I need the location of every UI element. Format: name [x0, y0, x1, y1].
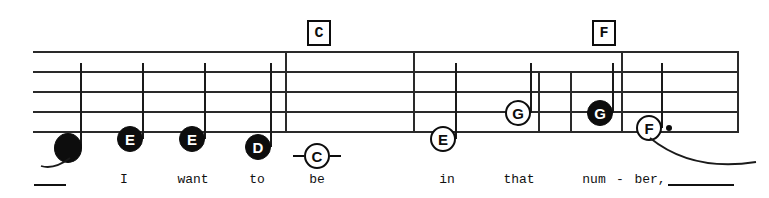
notehead-g: G — [505, 100, 531, 126]
note-stem — [661, 63, 663, 128]
lyric-syllable: I — [120, 172, 128, 187]
notehead-g: G — [587, 100, 613, 126]
notehead-e: E — [430, 126, 456, 152]
slur-opening — [40, 150, 74, 170]
lyric-syllable: - — [616, 172, 624, 187]
barline — [538, 71, 540, 133]
lyric-syllable: ber, — [634, 172, 665, 187]
staff-line — [33, 91, 737, 93]
sheet-music-excerpt: C F EEDCEGGFIwanttobeinthatnum-ber, — [0, 0, 769, 198]
staff-line — [33, 111, 737, 113]
music-staff — [33, 51, 737, 133]
lyric-syllable: that — [503, 172, 534, 187]
chord-symbol-label: F — [599, 26, 608, 41]
note-stem — [455, 63, 457, 139]
note-stem — [270, 63, 272, 147]
note-stem — [612, 63, 614, 113]
barline — [621, 51, 623, 133]
barline — [285, 51, 287, 133]
sustain-stroke — [293, 155, 304, 157]
chord-symbol-f: F — [592, 20, 616, 46]
lyric-syllable: be — [309, 172, 325, 187]
barline — [737, 51, 739, 133]
notehead-e: E — [179, 126, 205, 152]
chord-symbol-label: C — [314, 26, 323, 41]
lyric-syllable: want — [177, 172, 208, 187]
note-stem — [530, 63, 532, 113]
notehead-letter: E — [187, 132, 197, 147]
lyric-syllable: to — [249, 172, 265, 187]
chord-symbol-c: C — [307, 20, 331, 46]
barline — [413, 51, 415, 133]
sustain-stroke — [330, 155, 341, 157]
notehead-letter: G — [512, 106, 524, 121]
notehead-letter: C — [312, 149, 323, 164]
notehead-c: C — [304, 143, 330, 169]
notehead-letter: G — [594, 106, 606, 121]
lyric-syllable: num — [582, 172, 605, 187]
staff-line — [33, 71, 737, 73]
notehead-d: D — [245, 134, 271, 160]
note-stem — [80, 63, 82, 148]
lyric-extension-line — [34, 184, 66, 186]
notehead-e: E — [117, 126, 143, 152]
staff-line — [33, 51, 737, 53]
lyric-extension-line — [668, 184, 734, 186]
augmentation-dot — [666, 125, 672, 131]
notehead-letter: D — [253, 140, 264, 155]
note-stem — [142, 63, 144, 139]
notehead-letter: F — [644, 121, 653, 136]
barline — [570, 71, 572, 133]
lyric-syllable: in — [439, 172, 455, 187]
tie-final-note — [648, 136, 758, 170]
notehead-letter: E — [125, 132, 135, 147]
notehead-letter: E — [438, 132, 448, 147]
note-stem — [204, 63, 206, 139]
